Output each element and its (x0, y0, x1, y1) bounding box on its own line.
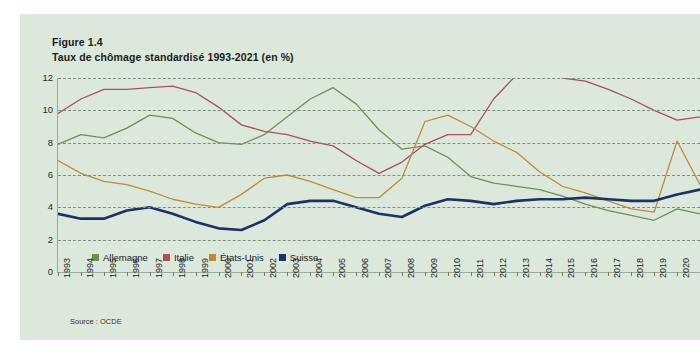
x-axis-tick (104, 272, 105, 276)
x-axis-tick-label: 2011 (475, 259, 485, 278)
x-axis-tick (585, 272, 586, 276)
x-axis-tick (150, 272, 151, 276)
figure-title: Taux de chômage standardisé 1993-2021 (e… (52, 51, 294, 63)
x-axis-tick-label: 2020 (681, 258, 691, 278)
x-axis-tick (58, 272, 59, 276)
y-axis-tick-label: 6 (27, 169, 53, 180)
gridline (58, 143, 700, 144)
x-axis-tick (356, 272, 357, 276)
x-axis-tick-label: 2014 (544, 258, 554, 278)
x-axis-tick-label: 2009 (429, 258, 439, 278)
x-axis-tick-label: 1994 (85, 258, 95, 278)
x-axis-tick (517, 272, 518, 276)
x-axis-tick-label: 2004 (314, 258, 324, 278)
x-axis-tick-label: 2000 (223, 258, 233, 278)
x-axis-tick-label: 2003 (291, 258, 301, 278)
x-axis-tick-label: 2012 (498, 258, 508, 278)
x-axis-tick-label: 2006 (360, 258, 370, 278)
x-axis-tick (425, 272, 426, 276)
y-axis-tick-label: 4 (27, 201, 53, 212)
x-axis-tick (608, 272, 609, 276)
gridline (58, 207, 700, 208)
x-axis-tick-label: 2008 (406, 258, 416, 278)
x-axis-tick-label: 2017 (612, 258, 622, 278)
x-axis-tick-label: 2010 (452, 258, 462, 278)
y-axis-tick-label: 12 (27, 72, 53, 83)
x-axis-tick-label: 2019 (658, 258, 668, 278)
x-axis-tick-label: 2002 (268, 258, 278, 278)
x-axis-tick-label: 2005 (337, 258, 347, 278)
figure-card: Figure 1.4 Taux de chômage standardisé 1… (20, 14, 700, 340)
x-axis-tick (310, 272, 311, 276)
y-axis-tick-label: 8 (27, 137, 53, 148)
gridline (58, 175, 700, 176)
x-axis-tick (379, 272, 380, 276)
x-axis-tick (81, 272, 82, 276)
x-axis-tick-label: 2007 (383, 258, 393, 278)
x-axis-tick (287, 272, 288, 276)
x-axis-tick-label: 1996 (131, 258, 141, 278)
x-axis-tick (494, 272, 495, 276)
series-line-italie (58, 78, 700, 173)
x-axis-tick (471, 272, 472, 276)
gridline (58, 110, 700, 111)
x-axis-tick (196, 272, 197, 276)
source-note: Source : OCDE (70, 317, 122, 326)
x-axis-tick (631, 272, 632, 276)
x-axis-tick (241, 272, 242, 276)
gridline (58, 78, 700, 79)
series-line-allemagne (58, 88, 700, 221)
x-axis-tick (264, 272, 265, 276)
x-axis-tick-label: 2013 (521, 258, 531, 278)
x-axis-tick-label: 1995 (108, 258, 118, 278)
figure-number: Figure 1.4 (52, 36, 103, 48)
x-axis-tick (677, 272, 678, 276)
legend-item--tats-unis[interactable]: États-Unis (209, 252, 264, 263)
legend-swatch-icon (279, 254, 286, 261)
x-axis-tick (562, 272, 563, 276)
x-axis-tick-label: 2001 (245, 258, 255, 278)
x-axis-tick-label: 1999 (200, 258, 210, 278)
x-axis-tick (654, 272, 655, 276)
x-axis-tick (333, 272, 334, 276)
x-axis-tick-label: 1997 (154, 258, 164, 278)
x-axis-tick (219, 272, 220, 276)
y-axis-tick-label: 10 (27, 104, 53, 115)
y-axis-tick-label: 2 (27, 234, 53, 245)
y-axis-labels: 024681012 (20, 78, 53, 273)
legend-swatch-icon (209, 254, 216, 261)
x-axis-tick (402, 272, 403, 276)
chart-plot-area (58, 78, 700, 272)
gridline (58, 240, 700, 241)
x-axis-tick (173, 272, 174, 276)
y-axis-tick-label: 0 (27, 266, 53, 277)
x-axis-tick-label: 2016 (589, 258, 599, 278)
x-axis-tick-label: 1993 (62, 258, 72, 278)
x-axis-tick-label: 2018 (635, 258, 645, 278)
x-axis-tick (127, 272, 128, 276)
x-axis-tick (448, 272, 449, 276)
x-axis-tick-label: 1998 (177, 258, 187, 278)
x-axis-tick (540, 272, 541, 276)
x-axis-tick-label: 2015 (566, 258, 576, 278)
